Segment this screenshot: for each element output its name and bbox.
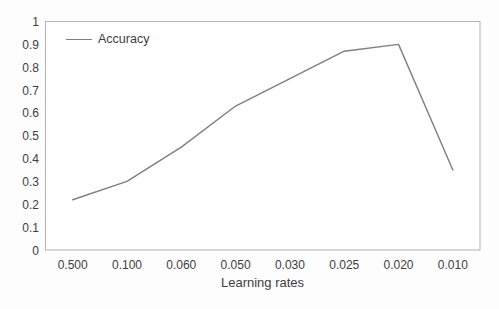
x-tick-label: 0.060 bbox=[166, 258, 196, 272]
y-tick-label: 0.2 bbox=[22, 198, 39, 212]
legend: Accuracy bbox=[66, 32, 149, 46]
x-tick-label: 0.500 bbox=[58, 258, 88, 272]
chart-plot-svg: 00.10.20.30.40.50.60.70.80.910.5000.1000… bbox=[0, 0, 499, 309]
x-tick-label: 0.025 bbox=[329, 258, 359, 272]
x-tick-label: 0.100 bbox=[112, 258, 142, 272]
y-tick-label: 0.6 bbox=[22, 106, 39, 120]
y-tick-label: 1 bbox=[32, 15, 39, 29]
y-tick-label: 0.8 bbox=[22, 61, 39, 75]
plot-area-border bbox=[46, 22, 481, 251]
y-tick-label: 0.9 bbox=[22, 38, 39, 52]
x-tick-label: 0.010 bbox=[438, 258, 468, 272]
y-tick-label: 0 bbox=[32, 244, 39, 258]
x-tick-label: 0.020 bbox=[384, 258, 414, 272]
accuracy-line-chart: 00.10.20.30.40.50.60.70.80.910.5000.1000… bbox=[0, 0, 499, 309]
legend-series-label: Accuracy bbox=[98, 32, 149, 46]
x-tick-label: 0.030 bbox=[275, 258, 305, 272]
y-tick-label: 0.3 bbox=[22, 175, 39, 189]
y-tick-label: 0.4 bbox=[22, 152, 39, 166]
y-tick-label: 0.5 bbox=[22, 129, 39, 143]
y-tick-label: 0.1 bbox=[22, 221, 39, 235]
legend-line-sample-icon bbox=[66, 39, 92, 40]
x-axis-title: Learning rates bbox=[45, 275, 480, 290]
x-tick-label: 0.050 bbox=[221, 258, 251, 272]
y-tick-label: 0.7 bbox=[22, 84, 39, 98]
